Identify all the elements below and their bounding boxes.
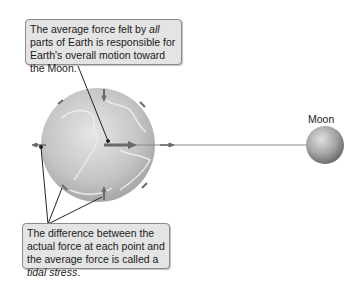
callout-text: The average force felt by bbox=[30, 23, 149, 35]
moon bbox=[306, 126, 344, 164]
tidal-stress-callout: The difference between the actual force … bbox=[22, 223, 170, 269]
callout-italic: tidal stress bbox=[27, 266, 77, 278]
callout-italic: all bbox=[149, 23, 160, 35]
callout-text: . bbox=[77, 266, 80, 278]
callout-text: The difference between the actual force … bbox=[27, 227, 165, 265]
moon-label: Moon bbox=[308, 113, 334, 125]
average-force-callout: The average force felt by all parts of E… bbox=[25, 19, 182, 65]
